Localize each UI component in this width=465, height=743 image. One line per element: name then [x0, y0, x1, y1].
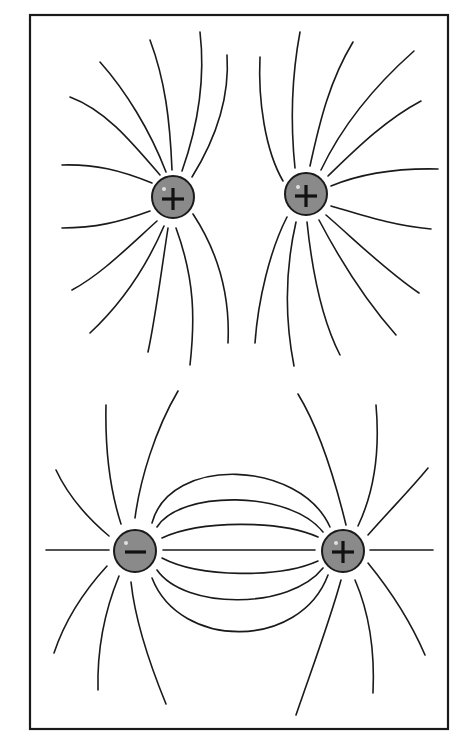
charge-positive: [152, 176, 194, 218]
charge-negative: [114, 530, 156, 572]
electric-field-diagram: [0, 0, 465, 743]
charge-positive: [322, 530, 364, 572]
diagram-frame: [30, 15, 448, 729]
charge-positive: [285, 173, 327, 215]
